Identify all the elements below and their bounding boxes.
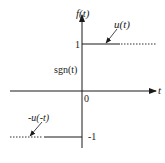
u-t-pointer-arrow xyxy=(106,29,117,43)
neg-u-neg-t-label: -u(-t) xyxy=(28,112,50,124)
x-axis-label: t xyxy=(158,84,162,96)
function-label: sgn(t) xyxy=(54,64,77,76)
positive-level-label: 1 xyxy=(75,39,80,50)
neg-u-neg-t-pointer-arrow xyxy=(30,122,42,136)
origin-label: 0 xyxy=(84,93,89,104)
u-t-label: u(t) xyxy=(114,18,130,31)
sgn-diagram: f(t) t 0 1 -1 sgn(t) u(t) -u(-t) xyxy=(0,0,165,163)
negative-level-label: -1 xyxy=(88,131,96,142)
y-axis-label: f(t) xyxy=(76,7,90,20)
